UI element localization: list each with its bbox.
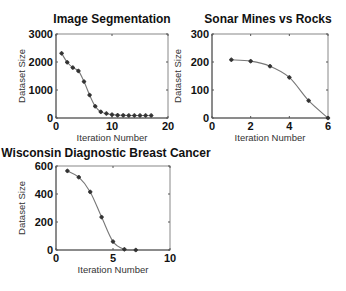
- chart-image-segmentation: Image Segmentation010002000300001020Iter…: [16, 12, 174, 143]
- y-axis-label: Dataset Size: [16, 181, 27, 235]
- x-tick-label: 10: [106, 120, 118, 132]
- x-axis-label: Iteration Number: [235, 132, 306, 143]
- chart-title: Sonar Mines vs Rocks: [204, 12, 332, 26]
- y-tick-label: 1000: [29, 84, 53, 96]
- x-tick-label: 6: [325, 120, 331, 132]
- chart-title: Wisconsin Diagnostic Breast Cancer: [1, 146, 211, 160]
- plot-area: [56, 166, 170, 250]
- x-axis-label: Iteration Number: [78, 264, 149, 275]
- y-tick-label: 300: [191, 28, 209, 40]
- chart-title: Image Segmentation: [53, 12, 170, 26]
- x-tick-label: 5: [110, 252, 116, 264]
- y-axis-label: Dataset Size: [16, 49, 27, 103]
- figure: Image Segmentation010002000300001020Iter…: [0, 0, 346, 291]
- y-tick-label: 100: [191, 84, 209, 96]
- x-tick-label: 20: [162, 120, 174, 132]
- plot-area: [56, 34, 168, 118]
- x-tick-label: 0: [53, 120, 59, 132]
- x-tick-label: 4: [286, 120, 293, 132]
- y-tick-label: 600: [35, 160, 53, 172]
- x-tick-label: 10: [164, 252, 176, 264]
- y-tick-label: 400: [35, 188, 53, 200]
- y-tick-label: 200: [35, 216, 53, 228]
- y-axis-label: Dataset Size: [172, 49, 183, 103]
- chart-sonar-mines-vs-rocks: Sonar Mines vs Rocks01002003000246Iterat…: [172, 12, 332, 143]
- x-tick-label: 0: [53, 252, 59, 264]
- y-tick-label: 2000: [29, 56, 53, 68]
- y-tick-label: 200: [191, 56, 209, 68]
- x-tick-label: 0: [209, 120, 215, 132]
- x-tick-label: 2: [248, 120, 254, 132]
- plot-area: [212, 34, 328, 118]
- y-tick-label: 3000: [29, 28, 53, 40]
- x-axis-label: Iteration Number: [77, 132, 148, 143]
- chart-wisconsin-diagnostic-breast-cancer: Wisconsin Diagnostic Breast Cancer020040…: [1, 146, 211, 275]
